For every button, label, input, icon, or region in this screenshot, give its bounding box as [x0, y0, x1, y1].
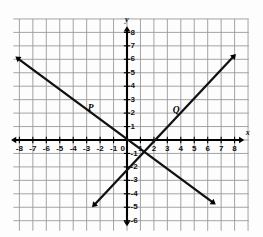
y-tick-label: -5 — [131, 202, 139, 211]
x-tick-label: 2 — [152, 144, 157, 153]
y-axis-arrow-negative — [124, 221, 131, 226]
x-tick-label: -2 — [97, 144, 105, 153]
x-tick-label: 7 — [219, 144, 224, 153]
graph-canvas: -8-7-6-5-4-3-2-101234567887654321-1-2-3-… — [0, 0, 263, 237]
line-label-q: Q — [173, 105, 180, 115]
y-tick-label: 6 — [131, 54, 136, 63]
y-tick-label: 8 — [131, 28, 136, 37]
x-tick-label: 6 — [205, 144, 210, 153]
x-tick-label: 3 — [165, 144, 170, 153]
x-tick-label: 8 — [232, 144, 237, 153]
y-tick-label: 5 — [131, 68, 136, 77]
x-tick-label: 1 — [138, 144, 143, 153]
line-label-p: P — [88, 103, 94, 113]
coordinate-plane: -8-7-6-5-4-3-2-101234567887654321-1-2-3-… — [0, 0, 263, 237]
x-tick-label: -4 — [70, 144, 78, 153]
y-tick-label: 2 — [131, 108, 136, 117]
axis-names: xy — [124, 15, 250, 137]
y-tick-label: -4 — [131, 189, 139, 198]
y-tick-label: -2 — [131, 162, 139, 171]
y-axis-name: y — [124, 15, 129, 24]
y-tick-label: 1 — [131, 122, 136, 131]
plotted-lines — [15, 54, 236, 207]
y-tick-label: 7 — [131, 41, 136, 50]
x-tick-label: 0 — [121, 144, 126, 153]
y-tick-label: -3 — [131, 175, 139, 184]
x-tick-label: -8 — [16, 144, 24, 153]
x-axis-arrow-positive — [239, 137, 244, 144]
x-tick-label: -7 — [29, 144, 37, 153]
y-axis-arrow-positive — [124, 26, 131, 31]
x-tick-label: 4 — [179, 144, 184, 153]
x-tick-label: 5 — [192, 144, 197, 153]
x-axis-arrow-negative — [11, 137, 16, 144]
y-tick-label: -1 — [131, 149, 139, 158]
y-tick-label: 4 — [131, 81, 136, 90]
y-tick-label: 3 — [131, 95, 136, 104]
y-tick-label: -6 — [131, 216, 139, 225]
x-tick-label: -1 — [110, 144, 118, 153]
x-axis-name: x — [245, 128, 250, 137]
x-tick-label: -3 — [83, 144, 91, 153]
x-tick-label: -6 — [43, 144, 51, 153]
x-tick-label: -5 — [56, 144, 64, 153]
